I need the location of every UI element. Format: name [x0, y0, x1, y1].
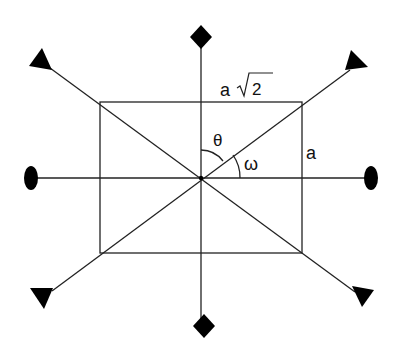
triangle-symbol-bottom-right: [352, 286, 374, 307]
ellipse-symbol-right: [364, 166, 378, 190]
label-right-side-a: a: [306, 143, 317, 163]
label-top-side-sqrt2: 2: [252, 80, 261, 99]
triangle-symbol-top-right: [345, 50, 368, 70]
label-theta: θ: [213, 131, 222, 150]
center-point: [199, 176, 203, 180]
symmetry-diagram: a 2 a θ ω: [0, 0, 399, 346]
theta-arc: [201, 150, 223, 161]
omega-arc: [233, 155, 240, 178]
triangle-symbol-top-left: [29, 48, 52, 70]
label-top-side-a: a: [220, 80, 231, 100]
ellipse-symbol-left: [24, 166, 38, 190]
diamond-symbol-top: [190, 25, 212, 49]
label-omega: ω: [244, 154, 258, 174]
triangle-symbol-bottom-left: [30, 288, 53, 309]
diamond-symbol-bottom: [193, 314, 215, 338]
